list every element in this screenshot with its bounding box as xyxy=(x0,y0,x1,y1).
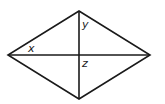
label-z: z xyxy=(81,57,88,70)
label-x: x xyxy=(27,42,35,55)
rhombus-diagram: x y z xyxy=(0,0,165,104)
label-y: y xyxy=(81,18,89,31)
